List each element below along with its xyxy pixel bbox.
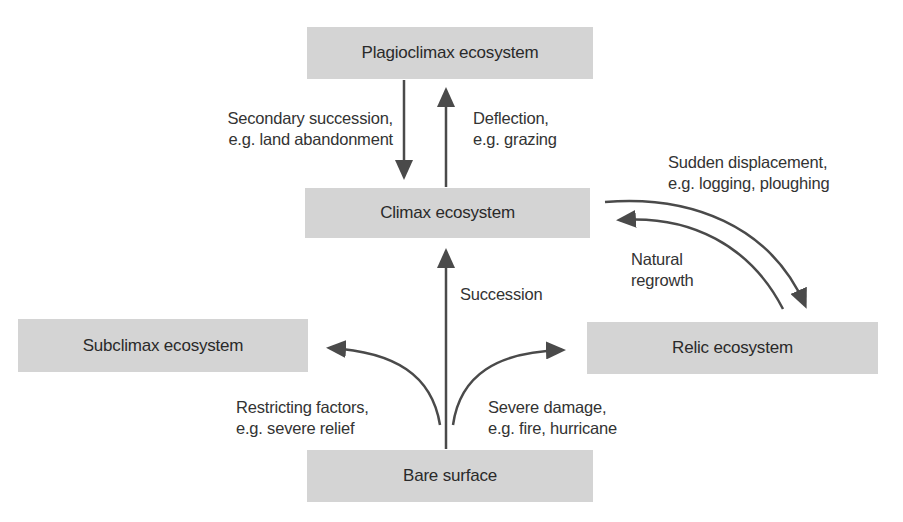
label-natural-regrowth: Natural regrowth xyxy=(631,249,694,291)
node-subclimax-ecosystem: Subclimax ecosystem xyxy=(18,319,308,372)
node-bare-surface: Bare surface xyxy=(307,450,593,502)
label-deflection: Deflection, e.g. grazing xyxy=(473,108,557,150)
node-label: Relic ecosystem xyxy=(672,338,793,358)
node-label: Bare surface xyxy=(403,466,497,486)
label-secondary-succession: Secondary succession, e.g. land abandonm… xyxy=(228,108,393,150)
label-severe-damage: Severe damage, e.g. fire, hurricane xyxy=(488,397,617,439)
label-restricting-factors: Restricting factors, e.g. severe relief xyxy=(236,397,369,439)
node-relic-ecosystem: Relic ecosystem xyxy=(587,322,878,374)
node-label: Climax ecosystem xyxy=(380,203,515,223)
node-plagioclimax-ecosystem: Plagioclimax ecosystem xyxy=(307,27,593,79)
node-label: Subclimax ecosystem xyxy=(83,336,244,356)
node-climax-ecosystem: Climax ecosystem xyxy=(305,188,590,238)
label-sudden-displacement: Sudden displacement, e.g. logging, ploug… xyxy=(668,152,829,194)
label-succession: Succession xyxy=(460,284,542,305)
node-label: Plagioclimax ecosystem xyxy=(362,43,539,63)
